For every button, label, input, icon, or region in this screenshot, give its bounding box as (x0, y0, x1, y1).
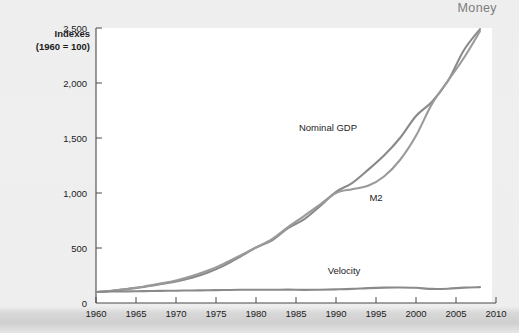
y-tick-label: 0 (82, 298, 87, 309)
y-tick-label: 2,000 (63, 78, 87, 89)
y-tick-label: 500 (71, 243, 87, 254)
y-tick-label: 1,500 (63, 133, 87, 144)
x-tick-label: 1995 (365, 308, 386, 319)
series-label-nominal-gdp: Nominal GDP (299, 122, 357, 133)
x-tick-label: 2010 (485, 308, 506, 319)
chart-figure: Money Indexes (1960 = 100) 05001,0001,50… (0, 0, 519, 333)
x-tick-label: 1960 (85, 308, 106, 319)
x-tick-label: 1965 (125, 308, 146, 319)
x-tick-label: 2000 (405, 308, 426, 319)
x-axis-ticks: 1960196519701975198019851990199520002005… (85, 297, 506, 319)
series-line-nominal-gdp (96, 29, 480, 292)
x-tick-label: 1980 (245, 308, 266, 319)
series-annotations: Nominal GDPM2Velocity (299, 122, 383, 275)
series-lines (96, 29, 480, 292)
chart-canvas: 05001,0001,5002,0002,500 196019651970197… (0, 0, 519, 333)
y-tick-label: 1,000 (63, 188, 87, 199)
series-line-velocity (96, 287, 480, 292)
y-tick-label: 2,500 (63, 23, 87, 34)
x-tick-label: 1990 (325, 308, 346, 319)
x-tick-label: 1970 (165, 308, 186, 319)
series-line-m2 (96, 31, 480, 292)
x-tick-label: 1975 (205, 308, 226, 319)
series-label-m2: M2 (369, 192, 382, 203)
series-label-velocity: Velocity (328, 265, 361, 276)
x-tick-label: 1985 (285, 308, 306, 319)
x-tick-label: 2005 (445, 308, 466, 319)
